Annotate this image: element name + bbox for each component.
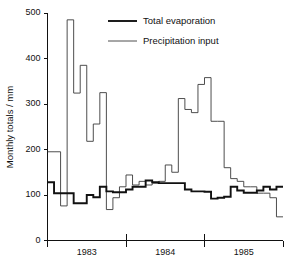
y-axis-title: Monthly totals / mm: [4, 86, 15, 168]
x-axis-ticks: 198319841985: [48, 234, 284, 257]
series-line-total-evaporation: [48, 180, 284, 203]
y-tick-label: 100: [25, 189, 40, 199]
monthly-totals-step-chart: 0100200300400500 198319841985 Monthly to…: [0, 0, 291, 270]
y-tick-label: 400: [25, 53, 40, 63]
legend-entry-total-evaporation: Total evaporation: [108, 15, 215, 26]
data-series-group: [48, 20, 284, 217]
x-tick-label: 1985: [234, 247, 254, 257]
chart-container: 0100200300400500 198319841985 Monthly to…: [0, 0, 291, 270]
y-tick-label: 200: [25, 144, 40, 154]
y-tick-label: 300: [25, 98, 40, 108]
legend-label-total-evaporation: Total evaporation: [143, 15, 215, 26]
legend-entry-precipitation-input: Precipitation input: [108, 35, 219, 46]
x-tick-label: 1984: [155, 247, 175, 257]
y-tick-label: 500: [25, 7, 40, 17]
y-tick-label: 0: [35, 235, 40, 245]
chart-legend: Total evaporation Precipitation input: [108, 15, 219, 46]
legend-label-precipitation-input: Precipitation input: [143, 35, 219, 46]
y-axis-ticks: 0100200300400500: [25, 7, 47, 245]
axes: [48, 13, 284, 241]
x-tick-label: 1983: [77, 247, 97, 257]
series-line-precipitation-input: [48, 20, 284, 217]
